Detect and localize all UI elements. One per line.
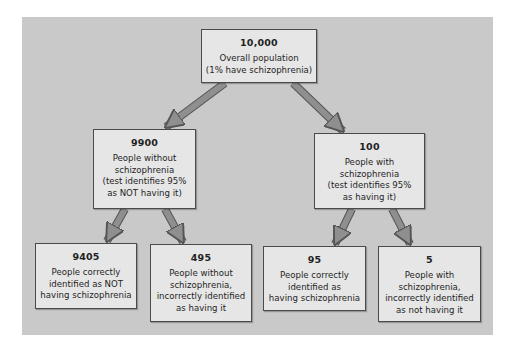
arrow-with-to-false-negative-icon bbox=[392, 209, 410, 244]
node-true-positive: 95 People correctly identified as having… bbox=[263, 246, 366, 311]
node-count: 95 bbox=[264, 254, 365, 265]
arrow-with-to-true-positive-icon bbox=[335, 209, 352, 244]
arrow-root-to-without-icon bbox=[166, 83, 225, 127]
node-description: People with schizophrenia, incorrectly i… bbox=[379, 270, 480, 316]
node-description: Overall population (1% have schizophreni… bbox=[202, 53, 316, 76]
node-true-negative: 9405 People correctly identified as NOT … bbox=[35, 243, 137, 309]
node-description: People correctly identified as NOT havin… bbox=[36, 267, 136, 302]
node-people-without-schizophrenia: 9900 People without schizophrenia (test … bbox=[93, 129, 196, 209]
node-count: 9405 bbox=[36, 251, 136, 262]
node-description: People with schizophrenia (test identifi… bbox=[315, 157, 424, 203]
node-false-negative: 5 People with schizophrenia, incorrectly… bbox=[378, 246, 481, 322]
node-count: 495 bbox=[151, 252, 251, 263]
node-count: 100 bbox=[315, 141, 424, 152]
arrow-without-to-false-positive-icon bbox=[165, 209, 183, 242]
node-count: 5 bbox=[379, 254, 480, 265]
node-count: 9900 bbox=[94, 137, 195, 148]
node-description: People without schizophrenia, incorrectl… bbox=[151, 268, 251, 314]
node-false-positive: 495 People without schizophrenia, incorr… bbox=[150, 244, 252, 322]
node-description: People without schizophrenia (test ident… bbox=[94, 153, 195, 199]
node-people-with-schizophrenia: 100 People with schizophrenia (test iden… bbox=[314, 133, 425, 209]
arrow-root-to-with-icon bbox=[293, 83, 343, 131]
node-count: 10,000 bbox=[202, 37, 316, 48]
node-description: People correctly identified as having sc… bbox=[264, 270, 365, 305]
arrow-without-to-true-negative-icon bbox=[107, 209, 125, 241]
root-node-overall-population: 10,000 Overall population (1% have schiz… bbox=[201, 29, 317, 83]
